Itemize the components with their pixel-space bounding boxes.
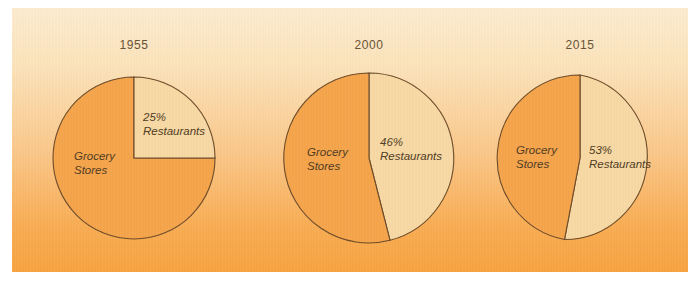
grocery-label-line2-2015: Stores bbox=[516, 158, 549, 170]
year-label-2000: 2000 bbox=[244, 38, 494, 52]
restaurants-name-2015: Restaurants bbox=[589, 158, 651, 170]
restaurants-percent-2000: 46% bbox=[380, 136, 403, 148]
grocery-label-line1-1955: Grocery bbox=[74, 150, 116, 162]
grocery-label-line1-2015: Grocery bbox=[516, 144, 558, 156]
pie-svg-2000: 46% Restaurants Grocery Stores bbox=[279, 68, 459, 248]
pie-graphic-2015: 53% Restaurants Grocery Stores bbox=[492, 70, 668, 246]
pie-chart-2015: 2015 53% Restaurants Grocery Stores bbox=[472, 8, 688, 272]
grocery-label-line1-2000: Grocery bbox=[307, 146, 349, 158]
pie-chart-1955: 1955 25% Restaurants Grocery Stores bbox=[12, 8, 256, 272]
pie-chart-2000: 2000 46% Restaurants Grocery Stores bbox=[244, 8, 494, 272]
pie-graphic-1955: 25% Restaurants Grocery Stores bbox=[48, 72, 220, 244]
pie-graphic-2000: 46% Restaurants Grocery Stores bbox=[279, 68, 459, 248]
caption-strip bbox=[12, 276, 688, 288]
figure-root: 1955 25% Restaurants Grocery Stores 2000 bbox=[0, 0, 697, 288]
grocery-label-line2-1955: Stores bbox=[74, 164, 107, 176]
grocery-label-line2-2000: Stores bbox=[307, 160, 340, 172]
restaurants-name-2000: Restaurants bbox=[380, 150, 442, 162]
restaurants-percent-1955: 25% bbox=[142, 111, 166, 123]
restaurants-name-1955: Restaurants bbox=[143, 125, 205, 137]
pie-svg-1955: 25% Restaurants Grocery Stores bbox=[48, 72, 220, 244]
restaurants-percent-2015: 53% bbox=[589, 144, 612, 156]
year-label-1955: 1955 bbox=[12, 38, 256, 52]
year-label-2015: 2015 bbox=[472, 38, 688, 52]
chart-panel: 1955 25% Restaurants Grocery Stores 2000 bbox=[12, 8, 688, 272]
pie-svg-2015: 53% Restaurants Grocery Stores bbox=[492, 70, 668, 246]
